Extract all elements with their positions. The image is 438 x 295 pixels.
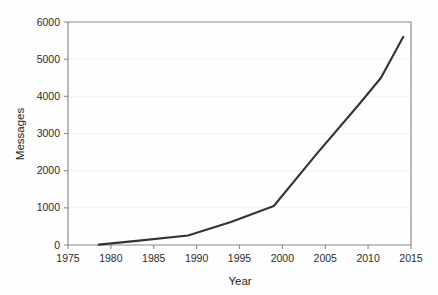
- x-tick-label: 1990: [185, 252, 209, 264]
- chart-figure: 0100020003000400050006000 19751980198519…: [0, 0, 438, 295]
- x-tick-label: 1975: [56, 252, 80, 264]
- x-tick-label: 1985: [142, 252, 166, 264]
- line-chart: 0100020003000400050006000 19751980198519…: [0, 0, 438, 295]
- x-tick-label: 1995: [228, 252, 252, 264]
- y-axis-title: Messages: [14, 108, 26, 161]
- y-tick-labels-group: 0100020003000400050006000: [37, 16, 61, 251]
- x-tick-labels-group: 197519801985199019952000200520102015: [56, 252, 423, 264]
- y-tick-label: 0: [54, 239, 60, 251]
- gridlines-group: [68, 59, 411, 208]
- y-tick-label: 1000: [37, 201, 61, 213]
- y-tick-label: 4000: [37, 90, 61, 102]
- x-tick-label: 2005: [314, 252, 338, 264]
- x-tick-label: 2015: [399, 252, 423, 264]
- y-tick-label: 2000: [37, 164, 61, 176]
- x-tick-label: 1980: [99, 252, 123, 264]
- y-tick-label: 6000: [37, 16, 61, 28]
- x-tick-label: 2010: [356, 252, 380, 264]
- data-series-line: [99, 37, 403, 245]
- y-tick-label: 5000: [37, 53, 61, 65]
- y-tick-label: 3000: [37, 127, 61, 139]
- x-axis-title: Year: [228, 275, 251, 287]
- x-tick-label: 2000: [271, 252, 295, 264]
